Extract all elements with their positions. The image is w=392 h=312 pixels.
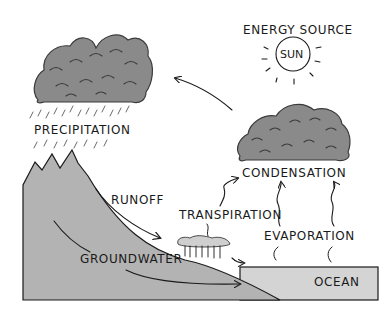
- arrow-to-precipitation: [175, 78, 232, 110]
- arrow-evaporation-2: [331, 182, 335, 226]
- vegetation-trees: [178, 236, 230, 258]
- condensation-cloud: [238, 104, 350, 160]
- label-precipitation: PRECIPITATION: [34, 123, 131, 137]
- label-condensation: CONDENSATION: [242, 166, 346, 180]
- arrow-transpiration-short: [207, 224, 208, 236]
- arrow-transpiration-up: [220, 178, 238, 206]
- label-energy-source: ENERGY SOURCE: [243, 23, 353, 37]
- arrow-runoff-small: [232, 258, 244, 263]
- label-groundwater: GROUNDWATER: [80, 252, 182, 266]
- precipitation-cloud: [34, 35, 152, 103]
- arrow-evaporation-short-2: [328, 247, 332, 262]
- label-runoff: RUNOFF: [111, 193, 164, 207]
- arrow-evaporation-short-1: [274, 247, 278, 260]
- label-transpiration: TRANSPIRATION: [178, 208, 282, 222]
- label-sun: SUN: [280, 48, 303, 61]
- label-evaporation: EVAPORATION: [264, 229, 355, 243]
- water-cycle-diagram: PRECIPITATION ENERGY SOURCE SUN CONDENSA…: [0, 0, 392, 312]
- label-ocean: OCEAN: [314, 275, 360, 289]
